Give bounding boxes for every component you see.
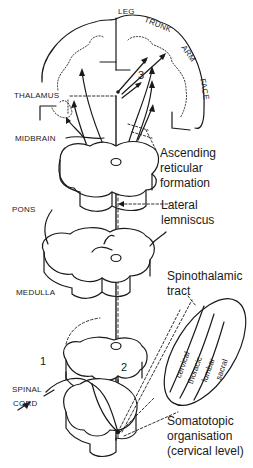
label-spinal: SPINAL	[12, 386, 42, 394]
neuron-number-3: 3	[138, 70, 144, 81]
label-ascending-reticular: Ascending reticular formation	[160, 146, 216, 191]
label-spinothalamic-tract: Spinothalamic tract	[167, 269, 242, 299]
pathway-diagram-art	[0, 0, 253, 468]
label-leg: LEG	[118, 8, 135, 16]
neuron-number-1: 1	[40, 356, 46, 367]
label-pons: PONS	[12, 206, 35, 214]
label-cord: CORD	[13, 400, 37, 408]
cortex-outline	[42, 15, 204, 128]
label-somatotopic-organisation: Somatotopic organisation (cervical level…	[167, 414, 244, 459]
label-midbrain: MIDBRAIN	[15, 135, 56, 143]
label-medulla: MEDULLA	[16, 289, 55, 297]
neuron-number-2: 2	[121, 362, 127, 373]
label-lateral-lemniscus: Lateral lemniscus	[161, 198, 214, 228]
label-thalamus: THALAMUS	[14, 92, 59, 100]
